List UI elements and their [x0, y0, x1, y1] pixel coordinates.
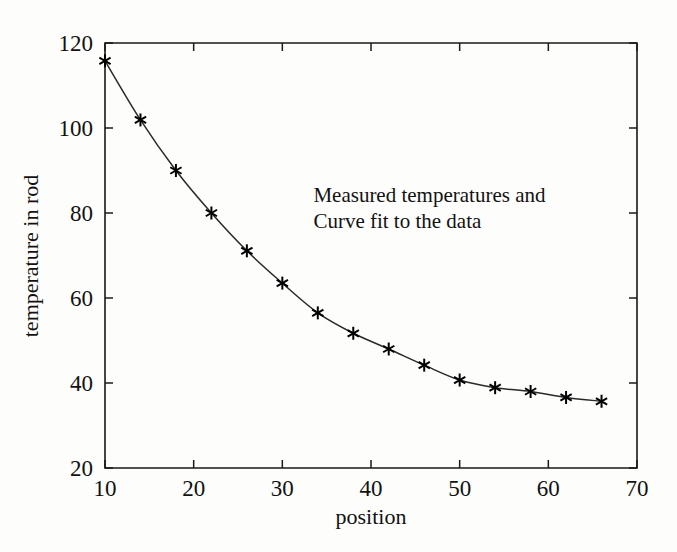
chart-page: 10203040506070 20406080100120 Measured t…	[0, 0, 677, 552]
y-axis-title: temperature in rod	[18, 175, 43, 338]
chart-figure: 10203040506070 20406080100120 Measured t…	[0, 0, 677, 552]
annotation-line-2: Curve fit to the data	[313, 209, 482, 233]
y-tick-label: 80	[70, 201, 93, 226]
x-tick-label: 70	[626, 476, 649, 501]
x-tick-label: 10	[94, 476, 117, 501]
y-tick-label: 120	[59, 31, 94, 56]
x-tick-label: 40	[360, 476, 383, 501]
x-tick-label: 60	[537, 476, 560, 501]
y-tick-label: 20	[70, 456, 93, 481]
y-tick-label: 60	[70, 286, 93, 311]
x-tick-label: 50	[448, 476, 471, 501]
annotation-line-1: Measured temperatures and	[313, 183, 546, 207]
y-tick-label: 40	[70, 371, 93, 396]
x-tick-label: 30	[271, 476, 294, 501]
figure-background	[0, 0, 677, 552]
x-axis-title: position	[336, 504, 407, 529]
plot-canvas: 10203040506070 20406080100120 Measured t…	[0, 0, 677, 552]
x-tick-label: 20	[182, 476, 205, 501]
y-tick-label: 100	[59, 116, 94, 141]
